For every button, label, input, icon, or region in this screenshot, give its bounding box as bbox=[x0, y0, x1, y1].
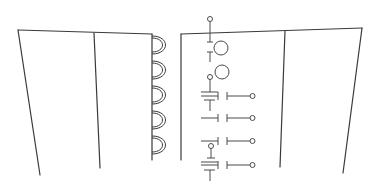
left-panel-divider bbox=[94, 33, 100, 168]
switch-row bbox=[201, 92, 255, 111]
diagram-svg bbox=[0, 0, 381, 190]
pin-terminal-icon bbox=[207, 17, 213, 63]
coil-circle-icon bbox=[215, 65, 229, 79]
pin-terminal-icon bbox=[208, 75, 213, 93]
left-panel bbox=[18, 30, 152, 175]
terminal-icon bbox=[250, 94, 255, 99]
right-panel-top-edge bbox=[181, 28, 362, 34]
diagram-canvas bbox=[0, 0, 381, 190]
symbols bbox=[201, 17, 255, 182]
hinge-loop-icon bbox=[152, 111, 166, 129]
switch-row bbox=[201, 137, 255, 158]
hinge-loops bbox=[152, 36, 166, 154]
terminal-icon bbox=[250, 116, 255, 121]
pin-terminal-icon bbox=[209, 144, 214, 149]
terminal-icon bbox=[250, 139, 255, 144]
hinge-loop-icon bbox=[152, 86, 166, 104]
terminal-icon bbox=[250, 163, 255, 168]
coil-circle-icon bbox=[214, 41, 228, 55]
right-panel-divider bbox=[280, 31, 285, 167]
switch-row bbox=[201, 114, 255, 122]
hinge-loop-icon bbox=[152, 36, 166, 54]
switch-row bbox=[201, 161, 255, 181]
left-panel-top-edge bbox=[18, 30, 152, 34]
hinge-loop-icon bbox=[152, 61, 166, 79]
left-panel-left-edge bbox=[18, 30, 40, 175]
hinge-loop-icon bbox=[152, 136, 166, 154]
right-panel-right-edge bbox=[343, 28, 362, 173]
